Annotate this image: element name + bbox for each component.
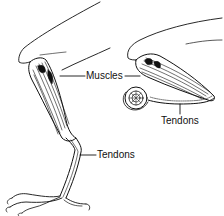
tendons-left-label: Tendons: [97, 149, 135, 160]
tendons-right-label: Tendons: [161, 115, 199, 126]
standing-leg-drawing: [6, 2, 110, 216]
perched-leg-drawing: [123, 18, 222, 110]
muscles-label: Muscles: [86, 70, 123, 81]
bird-leg-diagram: [0, 0, 224, 216]
